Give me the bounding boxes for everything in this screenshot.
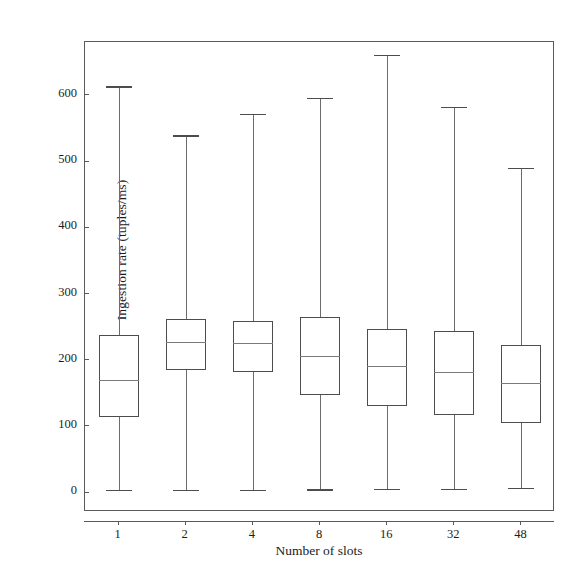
y-tick-label: 500 [58, 152, 77, 167]
median-line [166, 342, 206, 343]
whisker-upper [454, 107, 455, 331]
x-tick-label: 1 [88, 527, 148, 542]
whisker-cap-upper [307, 98, 333, 99]
median-line [501, 383, 541, 384]
whisker-lower [521, 423, 522, 489]
x-axis-title: Number of slots [84, 543, 554, 559]
median-line [99, 380, 139, 381]
boxplot-figure: Ingestion rate (tuples/ms) 0100200300400… [0, 0, 587, 571]
y-tick-mark [85, 94, 89, 95]
y-tick-mark [85, 492, 89, 493]
x-tick-label: 32 [423, 527, 483, 542]
whisker-cap-lower [441, 489, 467, 490]
y-tick-label: 200 [58, 351, 77, 366]
y-tick-label: 600 [58, 86, 77, 101]
whisker-lower [253, 372, 254, 490]
x-tick-label: 4 [222, 527, 282, 542]
y-tick-mark [85, 293, 89, 294]
whisker-cap-lower [106, 490, 132, 491]
x-tick-label: 8 [289, 527, 349, 542]
median-line [233, 343, 273, 344]
y-tick-mark [85, 227, 89, 228]
y-tick-label: 300 [58, 285, 77, 300]
whisker-upper [186, 135, 187, 318]
whisker-upper [253, 114, 254, 321]
whisker-cap-upper [374, 55, 400, 56]
y-tick-mark [85, 425, 89, 426]
x-tick-mark [453, 521, 454, 525]
whisker-lower [320, 395, 321, 490]
median-line [300, 356, 340, 357]
y-tick-label: 100 [58, 417, 77, 432]
median-line [434, 372, 474, 373]
whisker-lower [454, 415, 455, 489]
x-tick-mark [319, 521, 320, 525]
whisker-upper [119, 86, 120, 334]
x-tick-label: 16 [356, 527, 416, 542]
y-tick-label: 0 [71, 483, 77, 498]
x-tick-label: 2 [155, 527, 215, 542]
whisker-upper [387, 55, 388, 328]
whisker-cap-upper [508, 168, 534, 169]
y-tick-label: 400 [58, 218, 77, 233]
whisker-cap-lower [240, 490, 266, 491]
whisker-lower [387, 406, 388, 489]
x-tick-mark [386, 521, 387, 525]
whisker-cap-upper [106, 86, 132, 87]
whisker-cap-lower [173, 490, 199, 491]
x-tick-mark [118, 521, 119, 525]
plot-area: Ingestion rate (tuples/ms) 0100200300400… [84, 41, 554, 511]
x-tick-mark [185, 521, 186, 525]
whisker-upper [320, 98, 321, 317]
median-line [367, 366, 407, 367]
whisker-lower [119, 417, 120, 490]
x-tick-label: 48 [490, 527, 550, 542]
whisker-cap-lower [508, 488, 534, 489]
x-tick-mark [520, 521, 521, 525]
y-tick-mark [85, 161, 89, 162]
x-tick-mark [252, 521, 253, 525]
box-iqr [99, 335, 139, 417]
whisker-lower [186, 370, 187, 490]
whisker-upper [521, 168, 522, 345]
whisker-cap-upper [173, 135, 199, 136]
whisker-cap-upper [240, 114, 266, 115]
box-iqr [367, 329, 407, 406]
whisker-cap-lower [374, 489, 400, 490]
whisker-cap-lower [307, 489, 333, 490]
box-iqr [233, 321, 273, 372]
box-iqr [166, 319, 206, 370]
whisker-cap-upper [441, 107, 467, 108]
y-tick-mark [85, 359, 89, 360]
